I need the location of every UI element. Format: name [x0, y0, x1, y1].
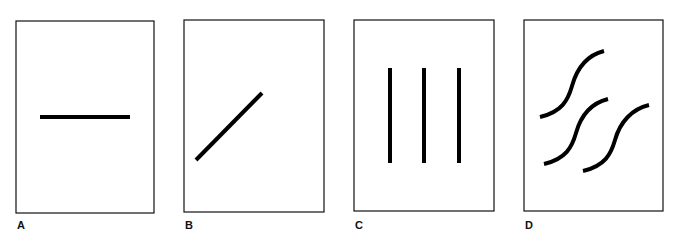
panel-d — [524, 20, 663, 211]
panel-label-b: B — [185, 220, 193, 231]
figure-canvas — [0, 0, 675, 239]
stroke-curve — [544, 99, 608, 164]
panel-label-d: D — [525, 220, 533, 231]
stroke-line — [196, 93, 262, 160]
panel-a — [16, 21, 154, 213]
panel-label-c: C — [355, 220, 363, 231]
panel-frame — [184, 20, 324, 212]
panel-b — [184, 20, 324, 212]
panel-c — [354, 20, 494, 211]
panel-label-a: A — [17, 220, 25, 231]
stroke-curve — [583, 105, 649, 171]
